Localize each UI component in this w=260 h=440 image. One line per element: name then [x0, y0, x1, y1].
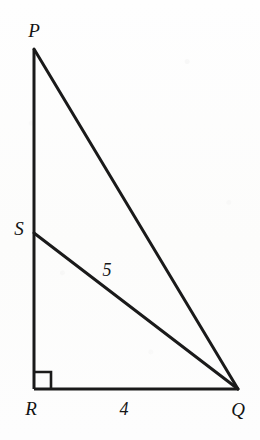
- vertex-label-Q: Q: [231, 400, 245, 419]
- length-label-SQ: 5: [103, 261, 112, 279]
- right-angle-marker: [34, 372, 51, 389]
- vertex-label-R: R: [25, 399, 37, 418]
- length-label-RQ: 4: [120, 400, 129, 418]
- vertex-label-P: P: [28, 21, 40, 40]
- segment-SQ: [34, 233, 238, 389]
- vertex-label-S: S: [14, 219, 24, 238]
- geometry-figure: P S R Q 5 4: [0, 0, 260, 440]
- segment-PQ: [34, 49, 238, 389]
- triangle-drawing: [0, 0, 260, 440]
